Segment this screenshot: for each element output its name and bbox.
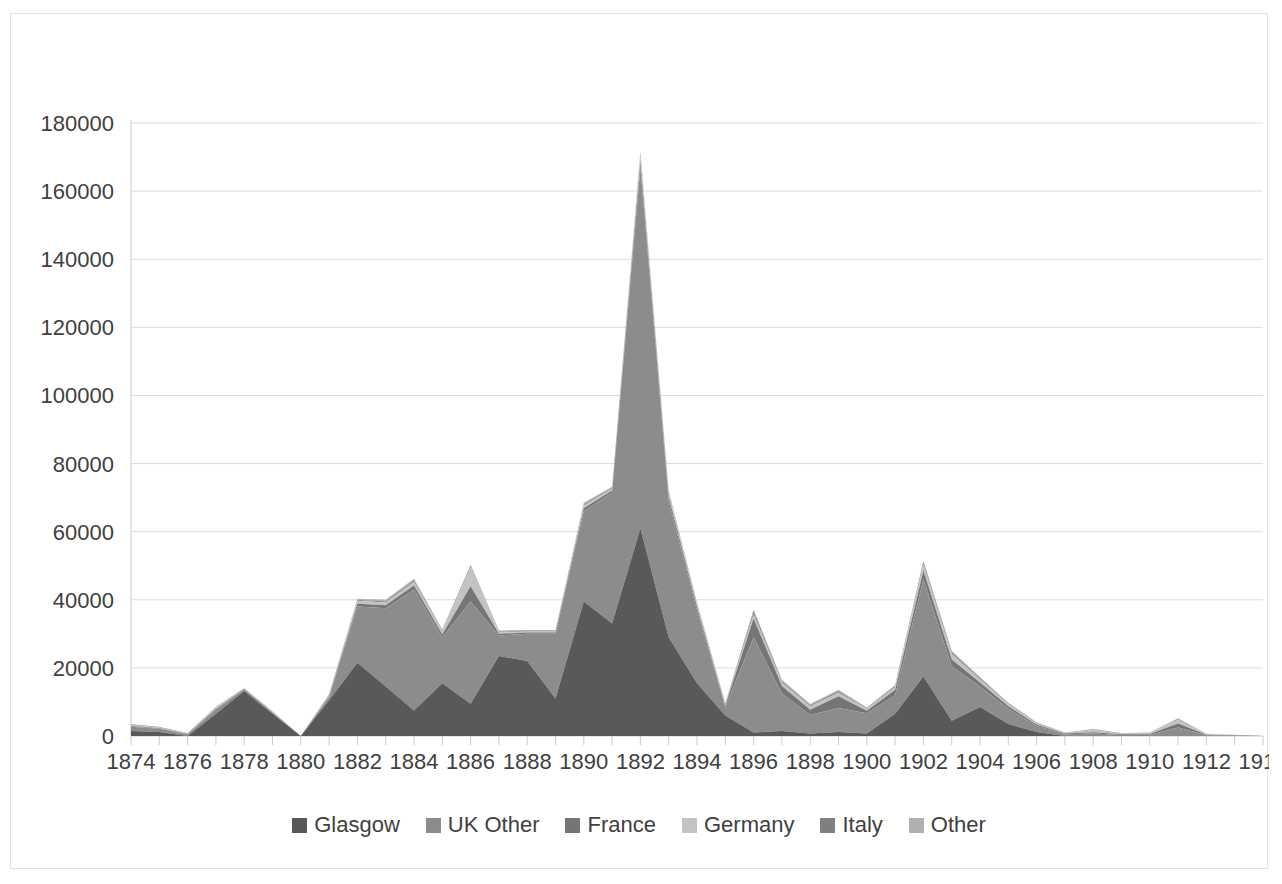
legend-item-germany[interactable]: Germany bbox=[682, 812, 794, 838]
x-tick-label: 1914 bbox=[1239, 749, 1269, 774]
legend-swatch-icon bbox=[820, 818, 835, 833]
x-tick-label: 1902 bbox=[899, 749, 948, 774]
y-tick-label: 80000 bbox=[53, 452, 114, 477]
y-tick-label: 120000 bbox=[41, 315, 114, 340]
chart-legend: GlasgowUK OtherFranceGermanyItalyOther bbox=[11, 812, 1267, 838]
y-tick-label: 40000 bbox=[53, 588, 114, 613]
x-tick-label: 1890 bbox=[559, 749, 608, 774]
legend-item-glasgow[interactable]: Glasgow bbox=[292, 812, 400, 838]
x-tick-label: 1898 bbox=[786, 749, 835, 774]
legend-swatch-icon bbox=[682, 818, 697, 833]
legend-item-italy[interactable]: Italy bbox=[820, 812, 882, 838]
x-axis-tick-labels: 1874187618781880188218841886188818901892… bbox=[107, 749, 1269, 774]
x-tick-label: 1878 bbox=[220, 749, 269, 774]
legend-label: Glasgow bbox=[314, 812, 400, 838]
legend-swatch-icon bbox=[426, 818, 441, 833]
legend-label: France bbox=[587, 812, 655, 838]
area-series-uk-other bbox=[131, 167, 1263, 736]
y-tick-label: 60000 bbox=[53, 520, 114, 545]
x-tick-label: 1886 bbox=[446, 749, 495, 774]
x-tick-label: 1908 bbox=[1069, 749, 1118, 774]
x-tick-label: 1892 bbox=[616, 749, 665, 774]
x-tick-label: 1882 bbox=[333, 749, 382, 774]
x-tick-label: 1900 bbox=[842, 749, 891, 774]
x-tick-label: 1876 bbox=[163, 749, 212, 774]
x-tick-label: 1880 bbox=[276, 749, 325, 774]
legend-item-other[interactable]: Other bbox=[909, 812, 986, 838]
legend-swatch-icon bbox=[909, 818, 924, 833]
x-tick-label: 1910 bbox=[1125, 749, 1174, 774]
x-tick-label: 1874 bbox=[107, 749, 156, 774]
y-tick-label: 140000 bbox=[41, 247, 114, 272]
y-tick-label: 160000 bbox=[41, 179, 114, 204]
stacked-area-chart: 0200004000060000800001000001200001400001… bbox=[11, 14, 1269, 870]
chart-frame: 0200004000060000800001000001200001400001… bbox=[10, 13, 1268, 869]
axis-ticks bbox=[131, 736, 1263, 745]
legend-label: Italy bbox=[842, 812, 882, 838]
y-tick-label: 100000 bbox=[41, 383, 114, 408]
legend-item-uk-other[interactable]: UK Other bbox=[426, 812, 540, 838]
y-axis-tick-labels: 0200004000060000800001000001200001400001… bbox=[41, 111, 114, 749]
x-tick-label: 1906 bbox=[1012, 749, 1061, 774]
legend-label: UK Other bbox=[448, 812, 540, 838]
legend-label: Germany bbox=[704, 812, 794, 838]
x-tick-label: 1894 bbox=[673, 749, 722, 774]
x-tick-label: 1884 bbox=[390, 749, 439, 774]
y-tick-label: 20000 bbox=[53, 656, 114, 681]
series-areas bbox=[131, 152, 1263, 736]
x-tick-label: 1888 bbox=[503, 749, 552, 774]
x-tick-label: 1896 bbox=[729, 749, 778, 774]
legend-item-france[interactable]: France bbox=[565, 812, 655, 838]
legend-swatch-icon bbox=[292, 818, 307, 833]
x-tick-label: 1912 bbox=[1182, 749, 1231, 774]
legend-label: Other bbox=[931, 812, 986, 838]
y-tick-label: 180000 bbox=[41, 111, 114, 136]
plot-area: 0200004000060000800001000001200001400001… bbox=[11, 14, 1269, 870]
legend-swatch-icon bbox=[565, 818, 580, 833]
y-tick-label: 0 bbox=[102, 724, 114, 749]
x-tick-label: 1904 bbox=[956, 749, 1005, 774]
